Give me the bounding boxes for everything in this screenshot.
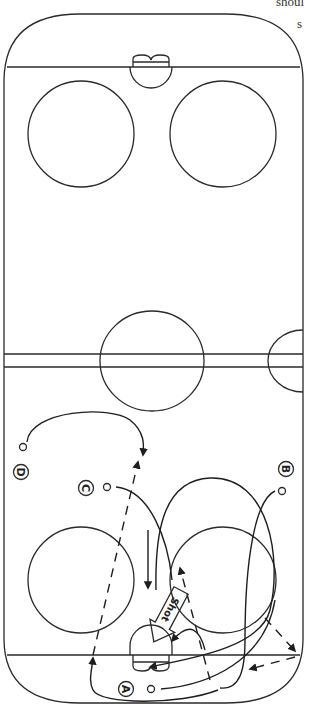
top-net-icon [133, 55, 169, 67]
bottom-goal-crease [130, 625, 172, 655]
player-d-marker [20, 444, 27, 451]
player-c-pass [93, 462, 138, 655]
center-faceoff-circle [100, 311, 204, 411]
player-a-label: A [119, 685, 132, 694]
return-to-net-path [172, 629, 205, 650]
loop-skate-path [150, 478, 274, 667]
top-left-faceoff-circle [28, 81, 134, 187]
top-right-faceoff-circle [170, 81, 276, 187]
pass-to-corner [265, 618, 295, 651]
top-goal-crease [130, 67, 172, 88]
player-d-skate-path [27, 412, 144, 455]
player-a-wrap-path [91, 658, 218, 701]
player-c-skate-path [116, 487, 172, 580]
bottom-right-faceoff-circle [170, 527, 276, 633]
player-b-marker [279, 488, 286, 495]
shot-label: Shot [159, 596, 181, 624]
pass-up-slot [180, 568, 210, 680]
player-d-label: D [14, 467, 27, 476]
hockey-rink-diagram: D C B A Shot [0, 0, 309, 710]
player-a-marker [148, 686, 155, 693]
rink-boards [4, 14, 303, 703]
shot-arrow: Shot [141, 584, 193, 648]
referee-crease [268, 330, 303, 392]
bottom-net-icon [133, 655, 169, 671]
player-c-marker [104, 484, 111, 491]
player-c-label: C [79, 484, 92, 492]
pass-from-corner [250, 657, 295, 669]
bottom-left-faceoff-circle [28, 527, 134, 633]
player-b-skate-path [220, 491, 275, 688]
player-b-label: B [279, 465, 292, 473]
